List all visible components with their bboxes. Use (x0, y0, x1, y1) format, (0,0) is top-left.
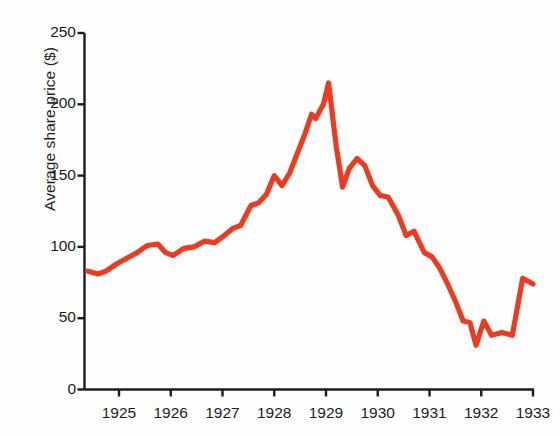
y-axis-tick-label: 50 (30, 308, 76, 326)
price-series-line (88, 83, 533, 345)
y-axis-tick-label: 100 (30, 237, 76, 255)
y-axis-tick-label: 0 (30, 380, 76, 398)
share-price-line-chart: Average share price ($) 050100150200250 … (0, 0, 560, 436)
chart-plot-area (0, 0, 560, 436)
y-axis-tick-label: 250 (30, 23, 76, 41)
y-axis-tick-label: 150 (30, 166, 76, 184)
x-axis-tick-label: 1933 (503, 404, 560, 422)
y-axis-tick-label: 200 (30, 94, 76, 112)
